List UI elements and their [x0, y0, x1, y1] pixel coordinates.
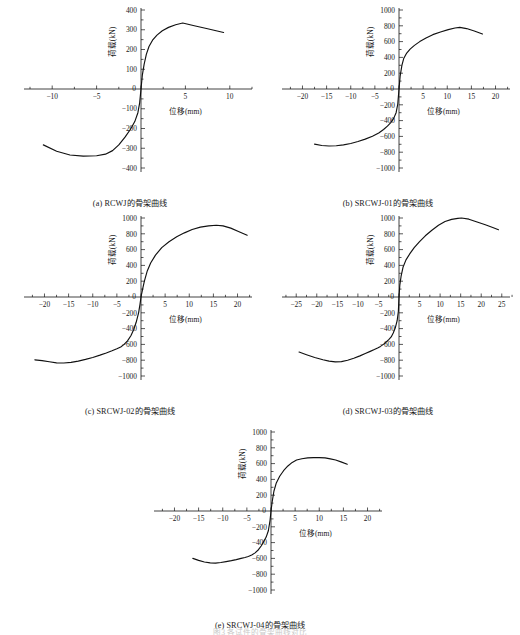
figure-bottom-caption: 图3 各试件的骨架曲线对比: [0, 626, 520, 635]
svg-text:1000: 1000: [122, 214, 137, 223]
svg-text:−200: −200: [380, 309, 396, 318]
svg-text:15: 15: [468, 92, 476, 101]
svg-text:400: 400: [256, 475, 267, 484]
svg-text:15: 15: [210, 300, 218, 309]
svg-text:−1000: −1000: [248, 586, 267, 595]
svg-text:20: 20: [478, 300, 486, 309]
svg-text:−400: −400: [380, 324, 396, 333]
svg-text:−5: −5: [243, 514, 251, 523]
chart-panel-b: −20−15−10−505101520−1000−800−600−400−200…: [258, 0, 518, 210]
svg-text:−20: −20: [297, 92, 309, 101]
plot-area-d: −25−20−15−10−50510152025−1000−800−600−40…: [258, 208, 518, 396]
svg-text:−20: −20: [311, 300, 323, 309]
panel-caption-d: (d) SRCWJ-03的骨架曲线: [258, 404, 518, 416]
panel-caption-c: (c) SRCWJ-02的骨架曲线: [0, 404, 260, 416]
svg-text:400: 400: [126, 6, 137, 15]
svg-text:25: 25: [498, 300, 506, 309]
svg-text:300: 300: [126, 25, 137, 34]
svg-text:−15: −15: [332, 300, 344, 309]
svg-text:−200: −200: [380, 101, 396, 110]
svg-text:400: 400: [384, 261, 395, 270]
svg-text:−5: −5: [93, 92, 101, 101]
plot-area-e: −20−15−10−505101520−1000−800−600−400−200…: [130, 422, 390, 610]
svg-text:10: 10: [444, 92, 452, 101]
svg-text:10: 10: [436, 300, 444, 309]
svg-text:20: 20: [364, 514, 372, 523]
svg-text:−300: −300: [122, 144, 138, 153]
svg-text:20: 20: [492, 92, 500, 101]
svg-text:−25: −25: [290, 300, 302, 309]
svg-text:600: 600: [126, 245, 137, 254]
svg-text:位移(mm): 位移(mm): [427, 314, 460, 324]
svg-text:600: 600: [384, 245, 395, 254]
svg-text:0: 0: [390, 84, 394, 93]
svg-text:200: 200: [384, 69, 395, 78]
chart-svg-e: −20−15−10−505101520−1000−800−600−400−200…: [130, 422, 390, 610]
svg-text:−200: −200: [122, 124, 138, 133]
chart-panel-e: −20−15−10−505101520−1000−800−600−400−200…: [130, 422, 390, 632]
svg-text:位移(mm): 位移(mm): [169, 106, 202, 116]
svg-text:荷载(kN): 荷载(kN): [365, 26, 375, 57]
svg-text:600: 600: [256, 459, 267, 468]
svg-text:800: 800: [126, 230, 137, 239]
svg-text:位移(mm): 位移(mm): [427, 106, 460, 116]
chart-svg-a: −10−50510−400−300−200−100100200300400位移(…: [0, 0, 260, 188]
svg-text:−400: −400: [122, 164, 138, 173]
panel-caption-a: (a) RCWJ的骨架曲线: [0, 196, 260, 208]
svg-text:−600: −600: [380, 132, 396, 141]
svg-text:−800: −800: [122, 356, 138, 365]
svg-text:−800: −800: [380, 148, 396, 157]
svg-text:−10: −10: [352, 300, 364, 309]
svg-text:−20: −20: [39, 300, 51, 309]
panel-caption-b: (b) SRCWJ-01的骨架曲线: [258, 196, 518, 208]
svg-text:−800: −800: [380, 356, 396, 365]
chart-svg-d: −25−20−15−10−50510152025−1000−800−600−40…: [258, 208, 518, 396]
svg-text:−100: −100: [122, 104, 138, 113]
svg-text:200: 200: [256, 491, 267, 500]
svg-text:5: 5: [184, 92, 188, 101]
svg-text:−1000: −1000: [118, 372, 137, 381]
svg-text:−200: −200: [252, 523, 268, 532]
svg-text:−15: −15: [321, 92, 333, 101]
chart-panel-d: −25−20−15−10−50510152025−1000−800−600−40…: [258, 208, 518, 418]
svg-text:10: 10: [316, 514, 324, 523]
svg-text:荷载(kN): 荷载(kN): [365, 234, 375, 265]
svg-text:−1000: −1000: [376, 164, 395, 173]
svg-text:−400: −400: [380, 116, 396, 125]
svg-text:1000: 1000: [252, 428, 267, 437]
svg-text:荷载(kN): 荷载(kN): [107, 234, 117, 265]
svg-text:−5: −5: [113, 300, 121, 309]
svg-text:−15: −15: [193, 514, 205, 523]
svg-text:0: 0: [262, 506, 266, 515]
svg-text:1000: 1000: [380, 214, 395, 223]
svg-text:0: 0: [132, 84, 136, 93]
svg-text:200: 200: [126, 277, 137, 286]
svg-text:−800: −800: [252, 570, 268, 579]
svg-text:400: 400: [384, 53, 395, 62]
svg-text:1000: 1000: [380, 6, 395, 15]
plot-area-c: −20−15−10−505101520−1000−800−600−400−200…: [0, 208, 260, 396]
chart-panel-c: −20−15−10−505101520−1000−800−600−400−200…: [0, 208, 260, 418]
svg-text:200: 200: [384, 277, 395, 286]
svg-text:5: 5: [421, 92, 425, 101]
svg-text:−5: −5: [371, 92, 379, 101]
svg-text:15: 15: [340, 514, 348, 523]
svg-text:800: 800: [256, 444, 267, 453]
svg-text:荷载(kN): 荷载(kN): [107, 26, 117, 57]
svg-text:20: 20: [234, 300, 242, 309]
plot-area-a: −10−50510−400−300−200−100100200300400位移(…: [0, 0, 260, 188]
svg-text:400: 400: [126, 261, 137, 270]
plot-area-b: −20−15−10−505101520−1000−800−600−400−200…: [258, 0, 518, 188]
svg-text:0: 0: [390, 292, 394, 301]
svg-text:−600: −600: [252, 554, 268, 563]
svg-text:10: 10: [186, 300, 194, 309]
svg-text:800: 800: [384, 230, 395, 239]
svg-text:−10: −10: [345, 92, 357, 101]
svg-text:荷载(kN): 荷载(kN): [237, 448, 247, 479]
svg-text:−10: −10: [46, 92, 58, 101]
chart-panel-a: −10−50510−400−300−200−100100200300400位移(…: [0, 0, 260, 210]
svg-text:5: 5: [293, 514, 297, 523]
svg-text:位移(mm): 位移(mm): [169, 314, 202, 324]
svg-text:5: 5: [163, 300, 167, 309]
svg-text:600: 600: [384, 37, 395, 46]
